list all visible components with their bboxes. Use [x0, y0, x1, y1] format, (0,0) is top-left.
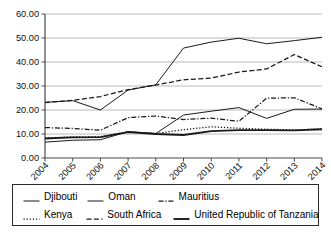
- legend-item-oman[interactable]: Oman: [87, 192, 135, 202]
- legend-swatch-icon: [23, 210, 40, 220]
- legend-label: Oman: [108, 192, 135, 202]
- x-axis-tick-label: 2005: [57, 160, 79, 182]
- x-axis-tick-label: 2007: [112, 160, 134, 182]
- x-axis-tick-label: 2004: [29, 160, 51, 182]
- legend-swatch-icon: [173, 210, 190, 220]
- x-axis-tick-label: 2014: [306, 160, 328, 182]
- x-axis-tick-label: 2013: [278, 160, 300, 182]
- legend-item-kenya[interactable]: Kenya: [23, 210, 72, 220]
- y-axis-tick-label: 50.00: [16, 33, 39, 43]
- chart-legend: DjiboutiOmanMauritius KenyaSouth AfricaU…: [12, 184, 319, 226]
- x-axis-tick-label: 2009: [167, 160, 189, 182]
- legend-row: KenyaSouth AfricaUnited Republic of Tanz…: [17, 206, 314, 224]
- y-axis-tick-label: 40.00: [16, 57, 39, 67]
- y-axis-tick-label: 10.00: [16, 129, 39, 139]
- legend-label: South Africa: [107, 210, 161, 220]
- x-axis-tick-label: 2012: [250, 160, 272, 182]
- legend-swatch-icon: [87, 192, 104, 202]
- legend-label: Kenya: [44, 210, 72, 220]
- legend-item-mauritius[interactable]: Mauritius: [158, 192, 220, 202]
- legend-row: DjiboutiOmanMauritius: [17, 188, 314, 206]
- y-axis-tick-label: 60.00: [16, 9, 39, 19]
- legend-item-djibouti[interactable]: Djibouti: [23, 192, 77, 202]
- y-axis-tick-label: 30.00: [16, 81, 39, 91]
- legend-swatch-icon: [23, 192, 40, 202]
- x-axis-tick-label: 2008: [140, 160, 162, 182]
- x-axis-tick-label: 2010: [195, 160, 217, 182]
- y-axis-tick-label: 20.00: [16, 105, 39, 115]
- x-axis-tick-label: 2011: [223, 160, 244, 181]
- line-chart: 0.0010.0020.0030.0040.0050.0060.00200420…: [0, 0, 331, 233]
- series-line-kenya: [45, 127, 322, 138]
- legend-label: United Republic of Tanzania: [194, 210, 318, 220]
- x-axis-tick-label: 2006: [84, 160, 106, 182]
- legend-label: Mauritius: [179, 192, 220, 202]
- legend-label: Djibouti: [44, 192, 77, 202]
- legend-swatch-icon: [86, 210, 103, 220]
- legend-item-south-africa[interactable]: South Africa: [86, 210, 161, 220]
- legend-swatch-icon: [158, 192, 175, 202]
- legend-item-united-republic-of-tanzania[interactable]: United Republic of Tanzania: [173, 210, 318, 220]
- y-axis-tick-label: 0.00: [21, 153, 39, 163]
